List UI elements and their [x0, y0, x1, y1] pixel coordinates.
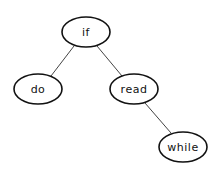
edge-if-read: [97, 46, 122, 76]
node-read-label: read: [121, 83, 148, 96]
node-if-label: if: [82, 26, 90, 39]
edge-read-while: [145, 103, 171, 133]
edge-if-do: [51, 46, 74, 76]
node-while-label: while: [167, 141, 198, 154]
node-do-label: do: [31, 83, 46, 96]
